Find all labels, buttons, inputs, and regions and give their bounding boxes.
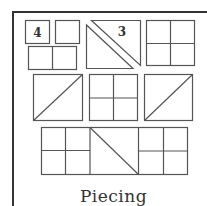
piece-rectangle-split [29, 47, 77, 70]
piece-row-unit-bottom [42, 128, 188, 175]
diagram-caption: Piecing [0, 186, 207, 206]
piece-half-square-triangle-right [145, 75, 193, 121]
piece-four-patch-center [90, 75, 138, 121]
piece-label-3: 3 [118, 25, 126, 39]
piece-triangle-pair-3 [87, 21, 141, 69]
piece-four-patch-top-right [147, 21, 195, 66]
piece-square-plain [56, 21, 80, 44]
piecing-diagram: 4 3 Piecing [0, 0, 207, 206]
outer-frame [13, 11, 207, 206]
upper-triangle [92, 21, 141, 66]
piece-half-square-triangle-left [34, 75, 83, 121]
piece-label-4: 4 [33, 26, 41, 40]
piecing-diagram-canvas: 4 3 [0, 0, 207, 206]
